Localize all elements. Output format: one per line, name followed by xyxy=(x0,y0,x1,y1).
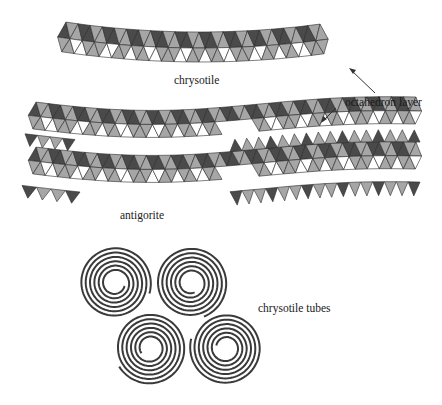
chrysotile-tubes-spirals xyxy=(81,248,259,383)
chrysotile-label: chrysotile xyxy=(174,74,219,87)
tube-spiral xyxy=(190,315,260,382)
chrysotile-tubes-label: chrysotile tubes xyxy=(258,302,331,315)
chrysotile-sheet xyxy=(58,22,329,62)
tube-spiral xyxy=(81,248,150,315)
antigorite-sheets xyxy=(22,97,422,205)
tube-spiral xyxy=(118,315,184,383)
antigorite-label: antigorite xyxy=(120,209,164,222)
tube-spiral xyxy=(158,249,226,317)
serpentine-structures-diagram: chrysotile octahedron layer antigorite c… xyxy=(0,0,442,405)
octahedron-layer-label: octahedron layer xyxy=(345,96,422,109)
